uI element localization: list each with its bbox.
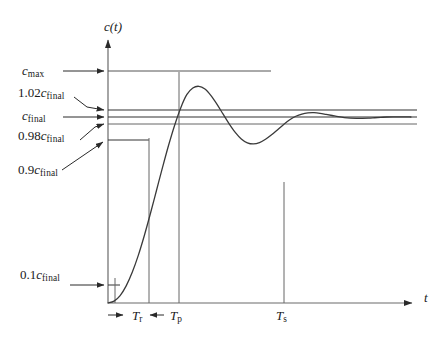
label-0-9-c-final: 0.9cfinal [18, 163, 58, 176]
x-axis-label: t [424, 291, 428, 304]
leader-1-02 [74, 97, 104, 110]
reference-levels [108, 71, 417, 285]
label-peak-time: Tp [170, 309, 182, 322]
label-0-1-c-final: 0.1cfinal [20, 268, 60, 281]
label-leaders [62, 71, 104, 285]
axes [108, 40, 412, 303]
y-axis-label: c(t) [104, 20, 122, 33]
label-settling-time: Ts [276, 309, 287, 322]
leader-0-9 [62, 142, 103, 170]
label-c-max: cmax [22, 64, 44, 77]
step-response-figure [0, 0, 442, 339]
label-0-98-c-final: 0.98cfinal [18, 129, 65, 142]
label-c-final: cfinal [22, 109, 46, 122]
leader-0-98 [80, 124, 104, 140]
label-rise-time: Tr [132, 309, 143, 322]
label-1-02-c-final: 1.02cfinal [18, 86, 65, 99]
time-marker-lines [115, 72, 284, 303]
response-curve [108, 86, 411, 303]
